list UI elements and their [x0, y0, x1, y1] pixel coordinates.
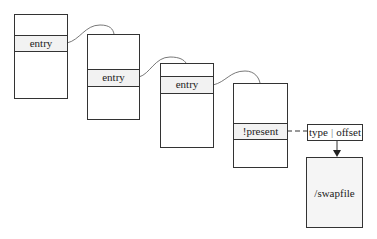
page-table-1: entry	[14, 14, 68, 99]
page-table-3: entry	[160, 63, 214, 148]
swap-type-label: type	[309, 126, 328, 138]
arrow-down-icon	[333, 150, 341, 157]
table-4-not-present-row: !present	[234, 123, 287, 140]
swapfile-label: /swapfile	[314, 187, 354, 199]
swap-entry-separator: |	[328, 126, 336, 138]
swapfile-box: /swapfile	[306, 157, 363, 228]
page-table-2: entry	[87, 34, 140, 120]
swap-offset-label: offset	[336, 126, 361, 138]
table-2-entry-row: entry	[88, 69, 139, 87]
swap-entry-box: type|offset	[307, 124, 363, 141]
page-table-swap-diagram: entry entry entry !present type|offset /…	[0, 0, 377, 239]
table-3-entry-row: entry	[161, 76, 213, 94]
page-table-4: !present	[233, 83, 288, 168]
table-1-entry-row: entry	[15, 35, 67, 52]
